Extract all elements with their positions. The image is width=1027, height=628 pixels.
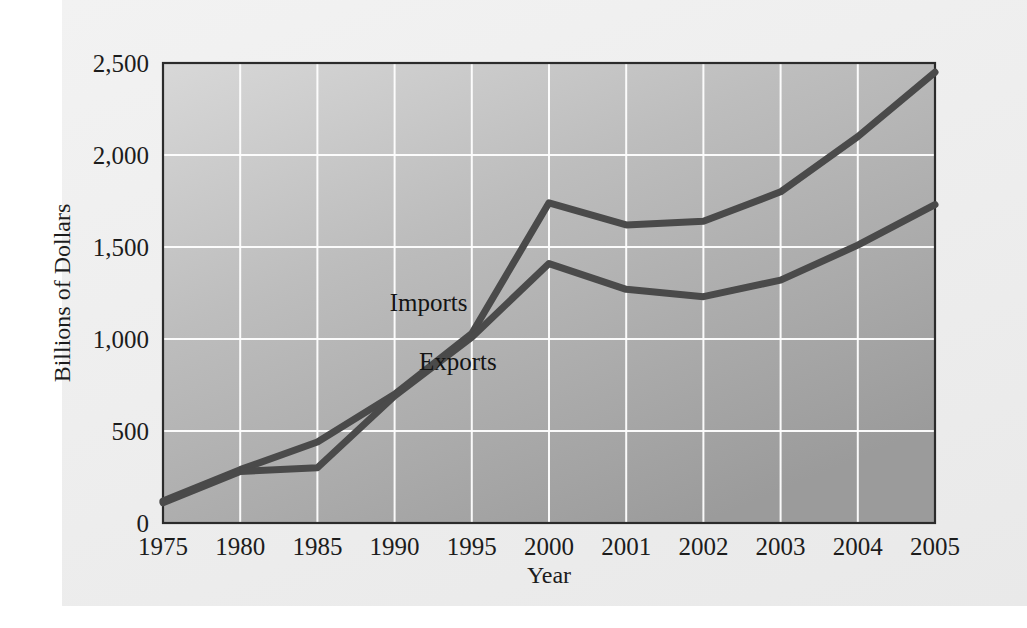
x-axis-tick-labels: 1975198019851990199520002001200220032004… xyxy=(138,533,960,560)
annotation-exports: Exports xyxy=(419,348,497,375)
x-tick-label-2000: 2000 xyxy=(524,533,574,560)
x-tick-label-1975: 1975 xyxy=(138,533,188,560)
x-tick-label-2002: 2002 xyxy=(678,533,728,560)
x-tick-label-2001: 2001 xyxy=(601,533,651,560)
x-tick-label-2004: 2004 xyxy=(833,533,884,560)
y-tick-label-2500: 2,500 xyxy=(93,50,149,77)
y-tick-label-1500: 1,500 xyxy=(93,234,149,261)
y-axis-title: Billions of Dollars xyxy=(49,204,75,383)
x-tick-label-1990: 1990 xyxy=(370,533,420,560)
line-chart: ImportsExports 05001,0001,5002,0002,500 … xyxy=(0,0,1027,628)
x-tick-label-2005: 2005 xyxy=(910,533,960,560)
annotation-imports: Imports xyxy=(390,289,468,316)
y-tick-label-2000: 2,000 xyxy=(93,142,149,169)
x-tick-label-1985: 1985 xyxy=(292,533,342,560)
y-tick-label-1000: 1,000 xyxy=(93,326,149,353)
x-tick-label-2003: 2003 xyxy=(756,533,806,560)
y-axis-tick-labels: 05001,0001,5002,0002,500 xyxy=(93,50,149,537)
y-tick-label-500: 500 xyxy=(112,418,150,445)
x-tick-label-1995: 1995 xyxy=(447,533,497,560)
x-tick-label-1980: 1980 xyxy=(215,533,265,560)
x-axis-title: Year xyxy=(527,562,571,588)
